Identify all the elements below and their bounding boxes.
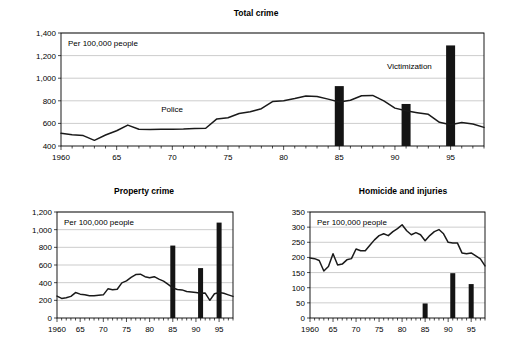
x-tick-label: 85 bbox=[421, 325, 430, 334]
y-tick-label: 400 bbox=[39, 279, 53, 288]
chart-panel-homicide-and-injuries: Homicide and injuries0501001502002503003… bbox=[255, 178, 511, 347]
y-tick-label: 250 bbox=[292, 238, 306, 247]
y-tick-label: 350 bbox=[292, 208, 306, 217]
victimization-bar bbox=[450, 273, 455, 318]
x-tick-label: 90 bbox=[191, 325, 200, 334]
y-tick-label: 100 bbox=[292, 284, 306, 293]
x-tick-label: 85 bbox=[168, 325, 177, 334]
y-tick-label: 1,000 bbox=[32, 226, 53, 235]
x-tick-label: 65 bbox=[329, 325, 338, 334]
x-tick-label: 95 bbox=[215, 325, 224, 334]
x-tick-label: 95 bbox=[467, 325, 476, 334]
x-tick-label: 75 bbox=[375, 325, 384, 334]
chart-panel-total-crime: Total crime4006008001,0001,2001,40019606… bbox=[0, 0, 511, 172]
x-tick-label: 1960 bbox=[52, 153, 70, 162]
x-tick-label: 80 bbox=[398, 325, 407, 334]
victimization-bar bbox=[335, 86, 344, 146]
y-tick-label: 600 bbox=[43, 119, 57, 128]
x-tick-label: 90 bbox=[444, 325, 453, 334]
y-tick-label: 300 bbox=[292, 223, 306, 232]
victimization-bar bbox=[217, 223, 222, 318]
x-tick-label: 70 bbox=[352, 325, 361, 334]
police-series-line bbox=[57, 274, 233, 300]
x-tick-label: 65 bbox=[112, 153, 121, 162]
chart-title: Homicide and injuries bbox=[359, 186, 448, 196]
y-tick-label: 800 bbox=[39, 243, 53, 252]
y-tick-label: 800 bbox=[43, 97, 57, 106]
x-tick-label: 1960 bbox=[48, 325, 66, 334]
per-capita-note: Per 100,000 people bbox=[64, 218, 134, 227]
chart-title: Total crime bbox=[234, 8, 279, 18]
x-tick-label: 90 bbox=[390, 153, 399, 162]
victimization-bar bbox=[446, 45, 455, 146]
crime-statistics-figure: Total crime4006008001,0001,2001,40019606… bbox=[0, 0, 511, 347]
y-tick-label: 0 bbox=[301, 314, 306, 323]
y-tick-label: 600 bbox=[39, 261, 53, 270]
per-capita-note: Per 100,000 people bbox=[68, 39, 138, 48]
plot-frame bbox=[61, 33, 484, 146]
x-tick-label: 70 bbox=[168, 153, 177, 162]
x-tick-label: 80 bbox=[145, 325, 154, 334]
y-tick-label: 1,200 bbox=[36, 52, 57, 61]
y-tick-label: 400 bbox=[43, 142, 57, 151]
victimization-bar bbox=[170, 246, 175, 318]
y-tick-label: 200 bbox=[39, 296, 53, 305]
y-tick-label: 1,400 bbox=[36, 29, 57, 38]
x-tick-label: 70 bbox=[99, 325, 108, 334]
chart-panel-property-crime: Property crime02004006008001,0001,200196… bbox=[0, 178, 255, 347]
x-tick-label: 95 bbox=[446, 153, 455, 162]
series-label-police: Police bbox=[161, 105, 183, 114]
police-series-line bbox=[61, 95, 484, 140]
y-tick-label: 1,000 bbox=[36, 74, 57, 83]
series-label-victimization: Victimization bbox=[387, 62, 432, 71]
x-tick-label: 75 bbox=[224, 153, 233, 162]
victimization-bar bbox=[423, 303, 428, 318]
y-tick-label: 1,200 bbox=[32, 208, 53, 217]
per-capita-note: Per 100,000 people bbox=[317, 218, 387, 227]
y-tick-label: 0 bbox=[48, 314, 53, 323]
y-tick-label: 150 bbox=[292, 269, 306, 278]
victimization-bar bbox=[469, 284, 474, 318]
y-tick-label: 200 bbox=[292, 253, 306, 262]
y-tick-label: 50 bbox=[296, 299, 305, 308]
x-tick-label: 80 bbox=[279, 153, 288, 162]
chart-title: Property crime bbox=[114, 186, 174, 196]
x-tick-label: 1960 bbox=[301, 325, 319, 334]
police-series-line bbox=[310, 225, 485, 271]
x-tick-label: 75 bbox=[122, 325, 131, 334]
x-tick-label: 65 bbox=[76, 325, 85, 334]
x-tick-label: 85 bbox=[335, 153, 344, 162]
